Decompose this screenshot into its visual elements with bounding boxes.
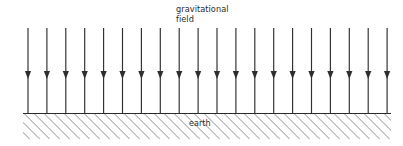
field-arrowhead bbox=[25, 71, 31, 79]
field-arrowhead bbox=[195, 71, 201, 79]
field-arrowhead bbox=[138, 71, 144, 79]
gravitational-field-diagram: gravitationalfield earth bbox=[0, 0, 403, 146]
field-arrowhead bbox=[101, 71, 107, 79]
field-arrow-group bbox=[25, 28, 390, 113]
field-arrowhead bbox=[157, 71, 163, 79]
field-arrowhead bbox=[290, 71, 296, 79]
field-label-line-1: gravitational bbox=[176, 4, 229, 14]
field-arrowhead bbox=[271, 71, 277, 79]
field-arrowhead bbox=[233, 71, 239, 79]
field-arrowhead bbox=[384, 71, 390, 79]
field-arrowhead bbox=[365, 71, 371, 79]
field-arrowhead bbox=[214, 71, 220, 79]
field-arrowhead bbox=[82, 71, 88, 79]
field-arrowhead bbox=[119, 71, 125, 79]
earth-label: earth bbox=[189, 119, 211, 129]
field-arrowhead bbox=[346, 71, 352, 79]
field-arrowhead bbox=[44, 71, 50, 79]
field-arrowhead bbox=[252, 71, 258, 79]
field-label-line-2: field bbox=[176, 14, 194, 24]
field-arrowhead bbox=[327, 71, 333, 79]
field-arrowhead bbox=[308, 71, 314, 79]
field-arrowhead bbox=[63, 71, 69, 79]
gravitational-field-label: gravitationalfield bbox=[176, 5, 229, 24]
field-arrowhead bbox=[176, 71, 182, 79]
